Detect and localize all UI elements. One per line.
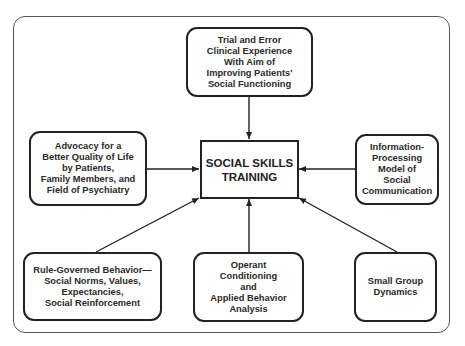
- node-operant-conditioning: Operant Conditioning and Applied Behavio…: [193, 252, 304, 322]
- node-small-group-dynamics: Small Group Dynamics: [354, 252, 437, 322]
- node-label: Operant Conditioning and Applied Behavio…: [210, 260, 286, 315]
- node-label: SOCIAL SKILLS TRAINING: [206, 156, 293, 184]
- node-label: Advocacy for a Better Quality of Life by…: [41, 141, 136, 196]
- arrow-bottom-left-to-center: [96, 198, 199, 252]
- arrow-bottom-right-to-center: [299, 198, 397, 252]
- node-label: Small Group Dynamics: [368, 276, 423, 298]
- node-social-skills-training: SOCIAL SKILLS TRAINING: [200, 140, 299, 199]
- node-rule-governed-behavior: Rule-Governed Behavior— Social Norms, Va…: [23, 252, 162, 321]
- node-trial-and-error: Trial and Error Clinical Experience With…: [186, 27, 313, 97]
- node-information-processing: Information- Processing Model of Social …: [355, 134, 439, 205]
- node-label: Rule-Governed Behavior— Social Norms, Va…: [33, 265, 151, 309]
- diagram-canvas: SOCIAL SKILLS TRAINING Trial and Error C…: [0, 0, 465, 346]
- node-label: Information- Processing Model of Social …: [362, 142, 432, 197]
- node-label: Trial and Error Clinical Experience With…: [207, 35, 293, 90]
- node-advocacy: Advocacy for a Better Quality of Life by…: [29, 131, 147, 206]
